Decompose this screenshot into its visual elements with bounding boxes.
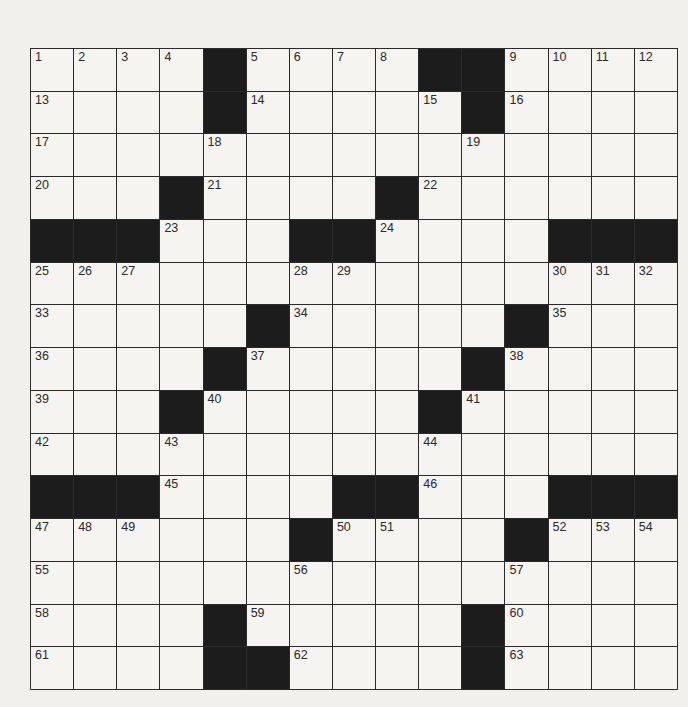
grid-cell[interactable] [117, 134, 159, 176]
grid-cell[interactable]: 63 [505, 647, 547, 689]
grid-cell[interactable] [419, 605, 461, 647]
grid-cell[interactable] [74, 177, 116, 219]
grid-cell[interactable] [160, 305, 202, 347]
grid-cell[interactable]: 9 [505, 49, 547, 91]
grid-cell[interactable] [74, 391, 116, 433]
grid-cell[interactable] [247, 519, 289, 561]
grid-cell[interactable] [505, 177, 547, 219]
grid-cell[interactable] [290, 92, 332, 134]
grid-cell[interactable] [462, 562, 504, 604]
grid-cell[interactable] [117, 562, 159, 604]
grid-cell[interactable] [592, 134, 634, 176]
grid-cell[interactable] [204, 434, 246, 476]
grid-cell[interactable] [635, 391, 677, 433]
grid-cell[interactable] [505, 134, 547, 176]
grid-cell[interactable]: 5 [247, 49, 289, 91]
grid-cell[interactable] [117, 391, 159, 433]
grid-cell[interactable]: 2 [74, 49, 116, 91]
grid-cell[interactable]: 4 [160, 49, 202, 91]
grid-cell[interactable]: 48 [74, 519, 116, 561]
grid-cell[interactable] [592, 605, 634, 647]
grid-cell[interactable] [204, 519, 246, 561]
grid-cell[interactable]: 52 [549, 519, 591, 561]
grid-cell[interactable] [505, 391, 547, 433]
grid-cell[interactable]: 54 [635, 519, 677, 561]
grid-cell[interactable] [419, 220, 461, 262]
grid-cell[interactable] [549, 177, 591, 219]
grid-cell[interactable] [505, 434, 547, 476]
grid-cell[interactable] [592, 391, 634, 433]
grid-cell[interactable]: 61 [31, 647, 73, 689]
grid-cell[interactable]: 29 [333, 263, 375, 305]
grid-cell[interactable]: 26 [74, 263, 116, 305]
grid-cell[interactable] [117, 605, 159, 647]
grid-cell[interactable] [376, 434, 418, 476]
grid-cell[interactable] [376, 263, 418, 305]
grid-cell[interactable]: 55 [31, 562, 73, 604]
grid-cell[interactable]: 41 [462, 391, 504, 433]
grid-cell[interactable] [160, 263, 202, 305]
grid-cell[interactable] [419, 562, 461, 604]
grid-cell[interactable]: 44 [419, 434, 461, 476]
grid-cell[interactable] [376, 92, 418, 134]
grid-cell[interactable] [635, 348, 677, 390]
grid-cell[interactable]: 20 [31, 177, 73, 219]
grid-cell[interactable] [74, 647, 116, 689]
grid-cell[interactable] [549, 562, 591, 604]
grid-cell[interactable] [247, 134, 289, 176]
grid-cell[interactable] [204, 305, 246, 347]
grid-cell[interactable]: 14 [247, 92, 289, 134]
grid-cell[interactable] [419, 263, 461, 305]
grid-cell[interactable] [247, 476, 289, 518]
grid-cell[interactable]: 57 [505, 562, 547, 604]
grid-cell[interactable]: 31 [592, 263, 634, 305]
grid-cell[interactable] [117, 177, 159, 219]
grid-cell[interactable] [160, 605, 202, 647]
grid-cell[interactable] [376, 348, 418, 390]
grid-cell[interactable] [117, 92, 159, 134]
grid-cell[interactable]: 32 [635, 263, 677, 305]
grid-cell[interactable] [592, 305, 634, 347]
grid-cell[interactable] [290, 391, 332, 433]
grid-cell[interactable] [333, 605, 375, 647]
grid-cell[interactable] [592, 92, 634, 134]
grid-cell[interactable] [247, 434, 289, 476]
grid-cell[interactable] [333, 434, 375, 476]
grid-cell[interactable] [333, 134, 375, 176]
grid-cell[interactable]: 22 [419, 177, 461, 219]
grid-cell[interactable]: 49 [117, 519, 159, 561]
grid-cell[interactable] [462, 519, 504, 561]
grid-cell[interactable]: 30 [549, 263, 591, 305]
grid-cell[interactable]: 33 [31, 305, 73, 347]
grid-cell[interactable] [74, 434, 116, 476]
grid-cell[interactable] [635, 134, 677, 176]
grid-cell[interactable] [635, 92, 677, 134]
grid-cell[interactable] [549, 605, 591, 647]
grid-cell[interactable] [74, 348, 116, 390]
grid-cell[interactable]: 11 [592, 49, 634, 91]
grid-cell[interactable]: 37 [247, 348, 289, 390]
grid-cell[interactable] [333, 391, 375, 433]
grid-cell[interactable] [290, 476, 332, 518]
grid-cell[interactable] [247, 562, 289, 604]
grid-cell[interactable] [74, 92, 116, 134]
grid-cell[interactable] [290, 177, 332, 219]
grid-cell[interactable]: 42 [31, 434, 73, 476]
grid-cell[interactable] [549, 434, 591, 476]
grid-cell[interactable]: 58 [31, 605, 73, 647]
grid-cell[interactable]: 36 [31, 348, 73, 390]
grid-cell[interactable] [290, 605, 332, 647]
grid-cell[interactable] [592, 647, 634, 689]
grid-cell[interactable] [160, 348, 202, 390]
grid-cell[interactable] [290, 348, 332, 390]
grid-cell[interactable] [505, 263, 547, 305]
grid-cell[interactable]: 19 [462, 134, 504, 176]
grid-cell[interactable] [462, 476, 504, 518]
grid-cell[interactable] [592, 177, 634, 219]
grid-cell[interactable] [592, 562, 634, 604]
grid-cell[interactable]: 3 [117, 49, 159, 91]
grid-cell[interactable]: 50 [333, 519, 375, 561]
grid-cell[interactable] [333, 92, 375, 134]
grid-cell[interactable] [419, 519, 461, 561]
grid-cell[interactable]: 47 [31, 519, 73, 561]
